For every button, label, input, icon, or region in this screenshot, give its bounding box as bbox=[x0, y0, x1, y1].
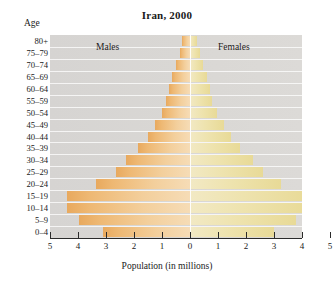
bar-female-60-64 bbox=[190, 84, 210, 94]
bar-male-15-19 bbox=[67, 191, 190, 201]
age-tick-label: 15–19 bbox=[2, 191, 48, 201]
bar-female-5-9 bbox=[190, 215, 296, 225]
bar-male-35-39 bbox=[138, 143, 190, 153]
age-tick-label: 5–9 bbox=[2, 215, 48, 225]
x-tick-label: 1 bbox=[153, 241, 171, 251]
x-tick-label: 4 bbox=[69, 241, 87, 251]
x-tick-mark bbox=[330, 232, 331, 238]
x-tick-mark bbox=[302, 232, 303, 238]
row-separator bbox=[50, 47, 302, 48]
age-tick-label: 25–29 bbox=[2, 167, 48, 177]
x-tick-label: 3 bbox=[97, 241, 115, 251]
age-tick-label: 55–59 bbox=[2, 96, 48, 106]
bar-female-0-4 bbox=[190, 227, 274, 237]
bar-male-25-29 bbox=[116, 167, 190, 177]
x-tick-label: 4 bbox=[293, 241, 311, 251]
x-tick-label: 0 bbox=[181, 241, 199, 251]
x-tick-mark bbox=[190, 232, 191, 238]
x-tick-label: 3 bbox=[265, 241, 283, 251]
bar-female-70-74 bbox=[190, 60, 203, 70]
bar-female-75-79 bbox=[190, 48, 200, 58]
age-tick-label: 30–34 bbox=[2, 155, 48, 165]
plot-area bbox=[50, 35, 302, 238]
bar-female-15-19 bbox=[190, 191, 302, 201]
x-tick-mark bbox=[162, 232, 163, 238]
chart-title: Iran, 2000 bbox=[0, 9, 334, 21]
age-tick-label: 70–74 bbox=[2, 60, 48, 70]
x-axis-title: Population (in millions) bbox=[0, 261, 334, 271]
age-tick-label: 45–49 bbox=[2, 120, 48, 130]
bar-female-25-29 bbox=[190, 167, 263, 177]
bar-male-0-4 bbox=[103, 227, 190, 237]
bar-male-45-49 bbox=[155, 120, 190, 130]
age-tick-label: 20–24 bbox=[2, 179, 48, 189]
bar-female-10-14 bbox=[190, 203, 302, 213]
bar-male-80+ bbox=[182, 36, 190, 46]
x-tick-label: 1 bbox=[209, 241, 227, 251]
x-tick-label: 5 bbox=[41, 241, 59, 251]
x-tick-mark bbox=[106, 232, 107, 238]
center-axis-line bbox=[190, 35, 191, 238]
age-tick-label: 65–69 bbox=[2, 72, 48, 82]
bar-female-30-34 bbox=[190, 155, 253, 165]
bar-male-75-79 bbox=[180, 48, 190, 58]
bar-female-50-54 bbox=[190, 108, 217, 118]
bar-male-40-44 bbox=[148, 132, 190, 142]
age-tick-label: 0–4 bbox=[2, 227, 48, 237]
x-tick-label: 2 bbox=[237, 241, 255, 251]
bar-male-5-9 bbox=[79, 215, 190, 225]
bar-male-55-59 bbox=[166, 96, 190, 106]
x-tick-mark bbox=[218, 232, 219, 238]
age-tick-label: 40–44 bbox=[2, 132, 48, 142]
population-pyramid-figure: Iran, 2000 Age 80+75–7970–7465–6960–6455… bbox=[0, 0, 334, 286]
bar-female-45-49 bbox=[190, 120, 224, 130]
x-tick-label: 2 bbox=[125, 241, 143, 251]
bar-female-35-39 bbox=[190, 143, 240, 153]
age-tick-label: 35–39 bbox=[2, 143, 48, 153]
bar-male-20-24 bbox=[96, 179, 190, 189]
bar-female-20-24 bbox=[190, 179, 281, 189]
bar-female-40-44 bbox=[190, 132, 231, 142]
bar-female-55-59 bbox=[190, 96, 212, 106]
bar-male-30-34 bbox=[126, 155, 190, 165]
bar-male-65-69 bbox=[172, 72, 190, 82]
age-tick-label: 80+ bbox=[2, 36, 48, 46]
x-tick-mark bbox=[274, 232, 275, 238]
legend-label-females: Females bbox=[218, 42, 250, 52]
bar-male-70-74 bbox=[176, 60, 190, 70]
x-tick-mark bbox=[78, 232, 79, 238]
bar-male-10-14 bbox=[67, 203, 190, 213]
x-tick-mark bbox=[134, 232, 135, 238]
bar-female-80+ bbox=[190, 36, 197, 46]
x-tick-label: 5 bbox=[321, 241, 334, 251]
bar-male-60-64 bbox=[169, 84, 190, 94]
age-tick-label: 60–64 bbox=[2, 84, 48, 94]
age-tick-label: 10–14 bbox=[2, 203, 48, 213]
legend-label-males: Males bbox=[96, 42, 119, 52]
x-tick-mark bbox=[246, 232, 247, 238]
x-tick-mark bbox=[50, 232, 51, 238]
bar-male-50-54 bbox=[162, 108, 190, 118]
age-tick-label: 50–54 bbox=[2, 108, 48, 118]
y-axis-title: Age bbox=[24, 18, 40, 28]
age-tick-label: 75–79 bbox=[2, 48, 48, 58]
x-axis-line bbox=[50, 238, 302, 239]
bar-female-65-69 bbox=[190, 72, 207, 82]
